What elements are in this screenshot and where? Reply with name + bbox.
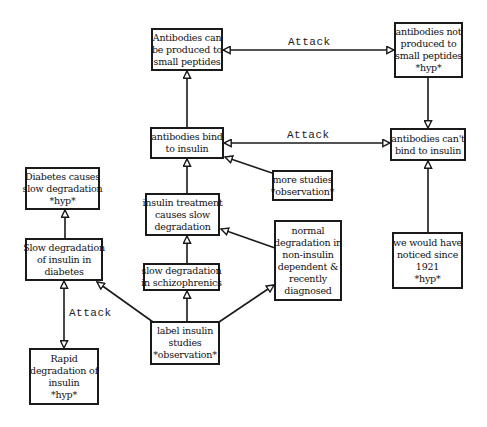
argument-diagram: Attack Attack Attack Antibodies can be p… <box>0 0 487 427</box>
node-diabetes-causes: Diabetes causes slow degradation *hyp* <box>25 167 100 210</box>
node-label-insulin-studies: label insulin studies *observation* <box>150 321 220 365</box>
node-antibodies-produced: Antibodies can be produced to small pept… <box>151 28 223 71</box>
attack-label-middle: Attack <box>287 129 330 141</box>
node-slow-degradation-diabetes: Slow degradation of insulin in diabetes <box>25 238 103 281</box>
node-normal-degradation: normal degradation in non-insulin depend… <box>274 220 342 301</box>
edge-morestudies-to-bind <box>225 157 272 173</box>
edge-label-to-normal <box>219 285 274 322</box>
node-slow-degradation-schizophrenics: slow degradation in schizophrenics <box>143 263 220 291</box>
node-insulin-treatment: insulin treatment causes slow degradatio… <box>145 193 220 236</box>
edge-normal-to-treatment <box>221 229 275 248</box>
node-antibodies-cant-bind: antibodies can't bind to insulin <box>390 128 466 161</box>
node-antibodies-bind: antibodies bind to insulin <box>150 127 224 159</box>
attack-label-left: Attack <box>69 307 112 319</box>
attack-label-top: Attack <box>288 36 331 48</box>
node-antibodies-not-produced: antibodies not produced to small peptide… <box>394 22 463 78</box>
node-rapid-degradation: Rapid degradation of insulin *hyp* <box>29 348 99 405</box>
node-would-have-noticed: we would have noticed since 1921 *hyp* <box>392 232 463 289</box>
node-more-studies: more studies *observation* <box>272 170 333 201</box>
